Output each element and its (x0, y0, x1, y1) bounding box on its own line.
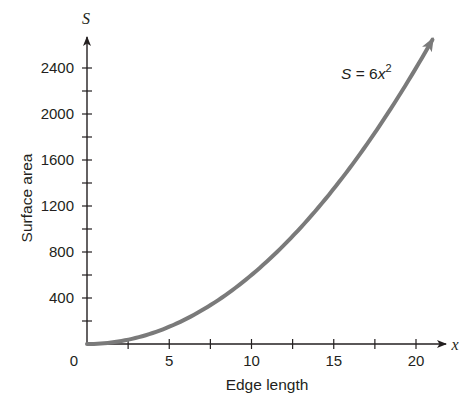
equation-label: S = 6x2 (341, 62, 392, 82)
y-tick-label: 800 (49, 243, 74, 260)
y-tick-label: 2000 (41, 105, 74, 122)
origin-label: 0 (70, 352, 78, 369)
x-variable-label: x (450, 336, 458, 353)
x-axis-title: Edge length (226, 376, 309, 393)
y-tick-label: 1200 (41, 197, 74, 214)
x-tick-label: 10 (243, 352, 260, 369)
x-axis: 5101520 (87, 339, 446, 369)
surface-area-curve (87, 40, 432, 344)
x-axis-tick-labels: 5101520 (165, 352, 424, 369)
equation-exponent: 2 (385, 62, 391, 74)
equation-s: S (341, 65, 352, 82)
equation-equals: = 6 (351, 65, 377, 82)
x-tick-label: 15 (325, 352, 342, 369)
x-tick-label: 20 (408, 352, 425, 369)
y-axis: 4008001200160020002400 (41, 37, 92, 344)
y-tick-label: 1600 (41, 151, 74, 168)
y-variable-label: S (82, 10, 90, 27)
y-tick-label: 2400 (41, 59, 74, 76)
y-axis-title: Surface area (18, 153, 35, 242)
chart-canvas: 4008001200160020002400 5101520 S x 0 Sur… (0, 0, 473, 415)
y-tick-label: 400 (49, 289, 74, 306)
y-axis-tick-labels: 4008001200160020002400 (41, 59, 74, 306)
x-tick-label: 5 (165, 352, 173, 369)
